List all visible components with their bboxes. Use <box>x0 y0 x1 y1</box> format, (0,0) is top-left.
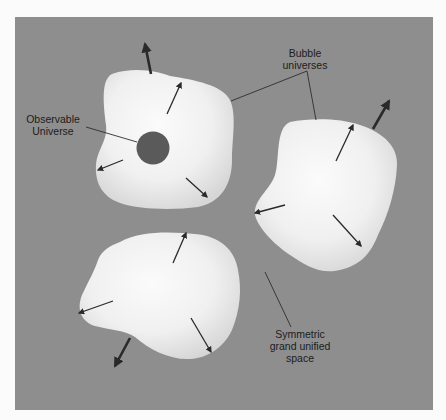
label-observable-universe: Observable Universe <box>24 113 82 137</box>
diagram-canvas <box>0 0 446 420</box>
label-bubble-universes: Bubble universes <box>279 47 331 71</box>
observable-universe-dot <box>137 132 170 165</box>
label-symmetric-space: Symmetric grand unified space <box>264 328 336 364</box>
bubble-universes-diagram: Observable Universe Bubble universes Sym… <box>0 0 446 420</box>
